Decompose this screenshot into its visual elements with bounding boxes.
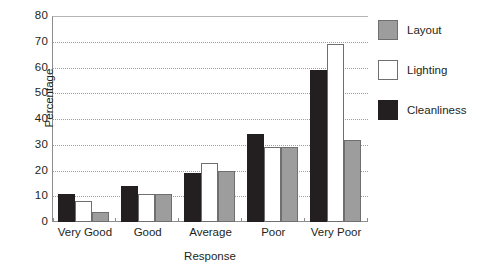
x-tick-label-good: Good <box>116 226 179 238</box>
bar-lighting-very-poor[interactable] <box>327 44 344 222</box>
legend-item-layout[interactable]: Layout <box>378 18 486 41</box>
x-tick-label-very-poor: Very Poor <box>305 226 368 238</box>
legend-swatch-lighting-icon <box>378 60 398 80</box>
y-tick-label: 0 <box>20 216 48 228</box>
bar-cleanliness-average[interactable] <box>184 173 201 222</box>
bar-layout-very-poor[interactable] <box>344 140 361 222</box>
bars-layer <box>54 16 368 222</box>
bar-group <box>310 16 361 222</box>
x-tick-label-average: Average <box>179 226 242 238</box>
x-tick-label-poor: Poor <box>242 226 305 238</box>
legend-label: Lighting <box>407 64 447 76</box>
legend-item-cleanliness[interactable]: Cleanliness <box>378 98 486 121</box>
bar-group <box>184 16 235 222</box>
bar-cleanliness-very-good[interactable] <box>58 194 75 222</box>
bar-group <box>247 16 298 222</box>
bar-layout-good[interactable] <box>155 194 172 222</box>
y-tick-label: 20 <box>20 165 48 177</box>
legend-label: Layout <box>407 24 442 36</box>
legend-item-lighting[interactable]: Lighting <box>378 58 486 81</box>
chart-legend: LayoutLightingCleanliness <box>378 18 486 138</box>
bar-group <box>58 16 109 222</box>
bar-lighting-good[interactable] <box>138 194 155 222</box>
x-tick-mark-origin <box>53 218 54 222</box>
legend-label: Cleanliness <box>407 104 466 116</box>
x-tick-mark <box>241 218 242 222</box>
bar-cleanliness-poor[interactable] <box>247 134 264 222</box>
x-tick-mark <box>115 218 116 222</box>
bar-group <box>121 16 172 222</box>
y-tick-label: 10 <box>20 190 48 202</box>
bar-layout-very-good[interactable] <box>92 212 109 222</box>
x-tick-mark <box>367 218 368 222</box>
x-tick-mark <box>178 218 179 222</box>
legend-swatch-layout-icon <box>378 20 398 40</box>
y-tick-label: 80 <box>20 10 48 22</box>
legend-swatch-cleanliness-icon <box>378 100 398 120</box>
x-tick-label-very-good: Very Good <box>54 226 117 238</box>
bar-lighting-very-good[interactable] <box>75 201 92 222</box>
bar-layout-poor[interactable] <box>281 147 298 222</box>
y-tick-0: 0 <box>14 216 48 228</box>
y-tick-10: 10 <box>14 190 48 202</box>
bar-layout-average[interactable] <box>218 171 235 223</box>
bar-lighting-poor[interactable] <box>264 147 281 222</box>
bar-lighting-average[interactable] <box>201 163 218 222</box>
bar-cleanliness-very-poor[interactable] <box>310 70 327 222</box>
bar-cleanliness-good[interactable] <box>121 186 138 222</box>
y-tick-80: 80 <box>14 10 48 22</box>
y-tick-20: 20 <box>14 165 48 177</box>
x-tick-mark <box>304 218 305 222</box>
x-axis-title: Response <box>52 250 368 262</box>
chart-container: 01020304050607080 Percentage Very GoodGo… <box>0 0 491 277</box>
